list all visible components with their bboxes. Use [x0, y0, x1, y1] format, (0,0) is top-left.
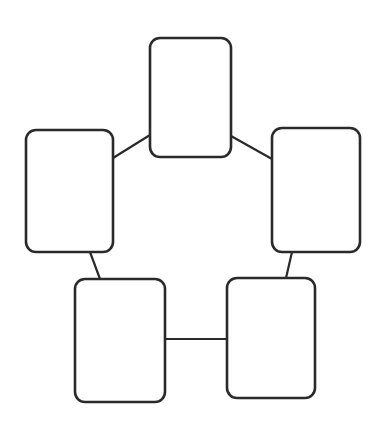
node-right[interactable] — [272, 128, 360, 252]
diagram-canvas — [0, 0, 376, 436]
node-right-shape[interactable] — [272, 128, 360, 252]
node-top[interactable] — [150, 38, 231, 157]
node-bottom-left[interactable] — [75, 279, 165, 402]
connector-left-to-top — [113, 135, 150, 158]
node-left[interactable] — [26, 130, 113, 252]
nodes-layer — [26, 38, 360, 402]
connector-right-to-bottom-right — [286, 252, 292, 278]
node-bottom-left-shape[interactable] — [75, 279, 165, 402]
node-left-shape[interactable] — [26, 130, 113, 252]
node-bottom-right[interactable] — [227, 278, 315, 398]
cycle-diagram — [0, 0, 376, 436]
connector-bottom-left-to-left — [90, 252, 100, 279]
node-bottom-right-shape[interactable] — [227, 278, 315, 398]
connector-top-to-right — [231, 136, 272, 159]
node-top-shape[interactable] — [150, 38, 231, 157]
